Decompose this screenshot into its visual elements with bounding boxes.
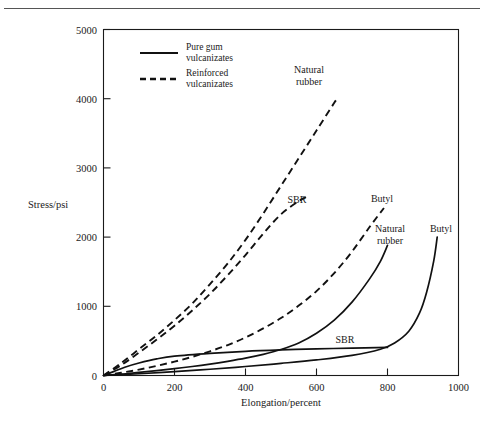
stress-strain-chart: 5000 4000 3000 2000 1000 0 0 200 400 600…	[0, 0, 484, 424]
legend-label-pure-gum-line1: Pure gum	[186, 42, 223, 52]
x-tick-label-1000: 1000	[448, 382, 469, 393]
x-tick-label-200: 200	[167, 382, 183, 393]
y-tick-label-0: 0	[92, 371, 97, 382]
annotation-natural-rubber-pure-gum-line2: rubber	[377, 235, 404, 246]
curve-butyl-reinforced	[104, 208, 384, 375]
y-tick-label-1000: 1000	[76, 301, 97, 312]
annotation-butyl-reinforced: Butyl	[371, 193, 393, 204]
y-tick-label-2000: 2000	[76, 232, 97, 243]
y-tick-label-4000: 4000	[76, 94, 97, 105]
y-tick-label-3000: 3000	[76, 163, 97, 174]
x-tick-label-600: 600	[309, 382, 325, 393]
y-axis-ticks	[104, 30, 111, 307]
legend-label-reinforced-line1: Reinforced	[186, 68, 228, 78]
legend-label-reinforced-line2: vulcanizates	[186, 79, 233, 89]
legend-label-pure-gum-line2: vulcanizates	[186, 53, 233, 63]
annotation-butyl-pure-gum: Butyl	[430, 223, 452, 234]
x-tick-label-400: 400	[238, 382, 254, 393]
annotation-natural-rubber-pure-gum-line1: Natural	[375, 223, 405, 234]
curve-natural-rubber-reinforced	[104, 98, 338, 375]
figure-root: 5000 4000 3000 2000 1000 0 0 200 400 600…	[0, 0, 484, 424]
curve-sbr-reinforced	[104, 196, 310, 376]
annotation-sbr-reinforced: SBR	[288, 194, 307, 205]
x-axis-title: Elongation/percent	[241, 397, 321, 408]
x-tick-label-0: 0	[101, 382, 106, 393]
annotation-sbr-pure-gum: SBR	[336, 334, 355, 345]
annotation-natural-rubber-reinforced-line2: rubber	[296, 76, 323, 87]
annotation-natural-rubber-reinforced-line1: Natural	[294, 64, 324, 75]
y-tick-label-5000: 5000	[76, 25, 97, 36]
x-tick-label-800: 800	[380, 382, 396, 393]
plot-frame	[104, 30, 459, 376]
curve-butyl-pure-gum	[104, 237, 438, 375]
y-axis-title: Stress/psi	[28, 199, 68, 210]
legend: Pure gum vulcanizates Reinforced vulcani…	[140, 42, 233, 89]
